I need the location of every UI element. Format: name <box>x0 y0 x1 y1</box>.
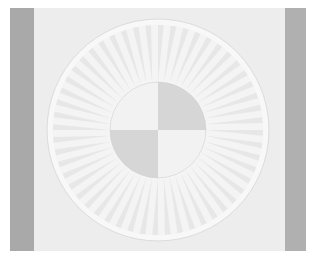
sunburst-quilt-block <box>0 0 314 258</box>
quilt-photo <box>0 0 314 258</box>
